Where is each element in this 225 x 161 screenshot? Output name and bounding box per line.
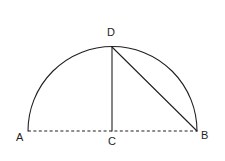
vertex-label-a: A (16, 132, 23, 143)
vertex-label-c: C (108, 136, 116, 147)
vertex-label-b: B (201, 130, 208, 141)
vertex-label-d: D (107, 27, 115, 38)
